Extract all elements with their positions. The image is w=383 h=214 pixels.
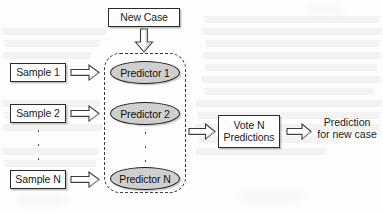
vote-predictions-line-1: Vote N xyxy=(234,120,265,132)
arrow-new-case-to-predictors xyxy=(134,28,154,53)
diagram-canvas: New Case Sample 1 Predictor 1 Sample 2 P… xyxy=(0,0,383,214)
predictor-2-label: Predictor 2 xyxy=(120,108,170,120)
vote-predictions-box[interactable]: Vote N Predictions xyxy=(218,115,280,148)
predictor-1-label: Predictor 1 xyxy=(120,67,170,79)
predictor-1-ellipse[interactable]: Predictor 1 xyxy=(110,61,180,84)
sample-column-ellipsis xyxy=(37,130,40,160)
new-case-label: New Case xyxy=(120,12,168,24)
sample-1-label: Sample 1 xyxy=(16,67,60,79)
arrow-sample-n-to-predictor-n xyxy=(70,171,100,188)
vote-predictions-line-2: Predictions xyxy=(224,132,275,144)
sample-2-label: Sample 2 xyxy=(16,108,60,120)
prediction-output-text: Prediction for new case xyxy=(314,113,380,143)
sample-2-box[interactable]: Sample 2 xyxy=(10,104,66,123)
predictor-2-ellipse[interactable]: Predictor 2 xyxy=(110,102,180,125)
predictor-n-ellipse[interactable]: Predictor N xyxy=(110,167,180,190)
prediction-output-line-1: Prediction xyxy=(324,116,371,128)
predictor-column-ellipsis xyxy=(144,132,147,162)
arrow-predictors-to-vote xyxy=(188,123,216,140)
predictor-n-label: Predictor N xyxy=(119,173,170,185)
arrow-sample-1-to-predictor-1 xyxy=(70,64,100,81)
prediction-output-line-2: for new case xyxy=(317,128,377,140)
sample-1-box[interactable]: Sample 1 xyxy=(10,63,66,82)
arrow-vote-to-prediction xyxy=(286,123,312,140)
sample-n-label: Sample N xyxy=(15,174,60,186)
new-case-box[interactable]: New Case xyxy=(108,8,180,27)
sample-n-box[interactable]: Sample N xyxy=(10,170,66,189)
arrow-sample-2-to-predictor-2 xyxy=(70,105,100,122)
